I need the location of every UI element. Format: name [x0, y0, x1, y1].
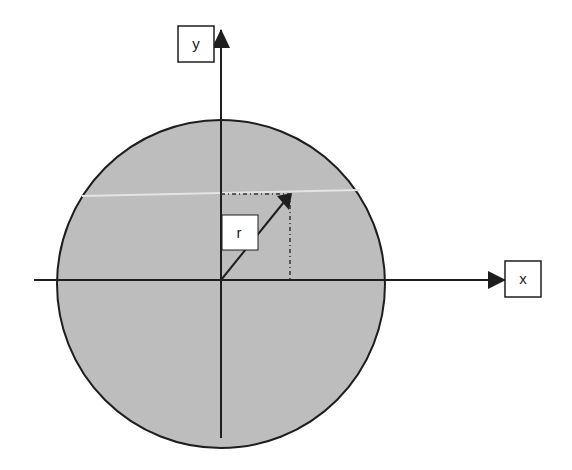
x-axis-arrow-icon	[488, 271, 506, 289]
y-label: y	[192, 35, 200, 52]
r-label: r	[237, 224, 242, 241]
polar-diagram: y x r	[0, 0, 572, 470]
x-label: x	[519, 270, 527, 287]
